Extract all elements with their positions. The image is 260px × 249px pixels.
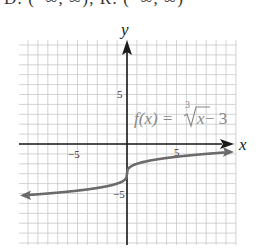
function-label-suffix: − 3 — [205, 109, 227, 128]
svg-text:f(x) =: f(x) = — [134, 109, 173, 128]
axes — [19, 40, 234, 245]
function-graph: x y −5 5 5 −5 f(x) = 3 x − 3 — [0, 0, 260, 249]
y-axis-label: y — [119, 20, 129, 39]
function-label: f(x) = 3 x − 3 — [134, 99, 227, 128]
x-axis-label: x — [238, 135, 247, 154]
function-label-prefix: f(x) = — [134, 109, 173, 128]
radicand: x — [196, 109, 205, 128]
y-tick-5: 5 — [117, 88, 123, 100]
y-tick-neg5: −5 — [113, 188, 125, 200]
root-index: 3 — [185, 99, 190, 110]
x-tick-neg5: −5 — [68, 148, 80, 160]
